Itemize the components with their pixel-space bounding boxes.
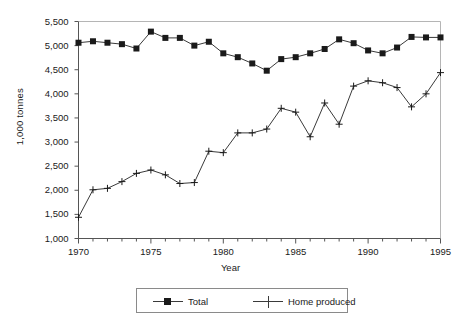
plot-area bbox=[0, 0, 461, 330]
y-axis-tick-label: 1,000 bbox=[27, 234, 69, 244]
y-axis-tick-label: 3,000 bbox=[27, 137, 69, 147]
y-axis-tick-label: 4,500 bbox=[27, 65, 69, 75]
legend-entry-home-produced: Home produced bbox=[253, 289, 356, 314]
chart-figure: 1,000 tonnes Year 1,0001,5002,0002,5003,… bbox=[0, 0, 461, 330]
legend-label-total: Total bbox=[188, 296, 208, 307]
y-axis-tick-label: 1,500 bbox=[27, 209, 69, 219]
legend-entry-total: Total bbox=[153, 289, 208, 314]
x-axis-tick-label: 1995 bbox=[421, 247, 461, 257]
square-marker-icon bbox=[153, 296, 183, 308]
x-axis-tick-label: 1970 bbox=[59, 247, 99, 257]
x-axis-title: Year bbox=[0, 262, 461, 273]
plus-marker-icon bbox=[253, 296, 283, 308]
y-axis-tick-label: 5,500 bbox=[27, 17, 69, 27]
y-axis-tick-label: 2,500 bbox=[27, 161, 69, 171]
x-axis-tick-label: 1990 bbox=[348, 247, 388, 257]
legend-label-home-produced: Home produced bbox=[288, 296, 356, 307]
y-axis-tick-label: 4,000 bbox=[27, 89, 69, 99]
chart-legend: Total Home produced bbox=[136, 288, 348, 313]
y-axis-tick-label: 3,500 bbox=[27, 113, 69, 123]
y-axis-tick-label: 2,000 bbox=[27, 185, 69, 195]
x-axis-tick-label: 1985 bbox=[276, 247, 316, 257]
x-axis-tick-label: 1975 bbox=[131, 247, 171, 257]
y-axis-tick-label: 5,000 bbox=[27, 41, 69, 51]
x-axis-tick-label: 1980 bbox=[203, 247, 243, 257]
